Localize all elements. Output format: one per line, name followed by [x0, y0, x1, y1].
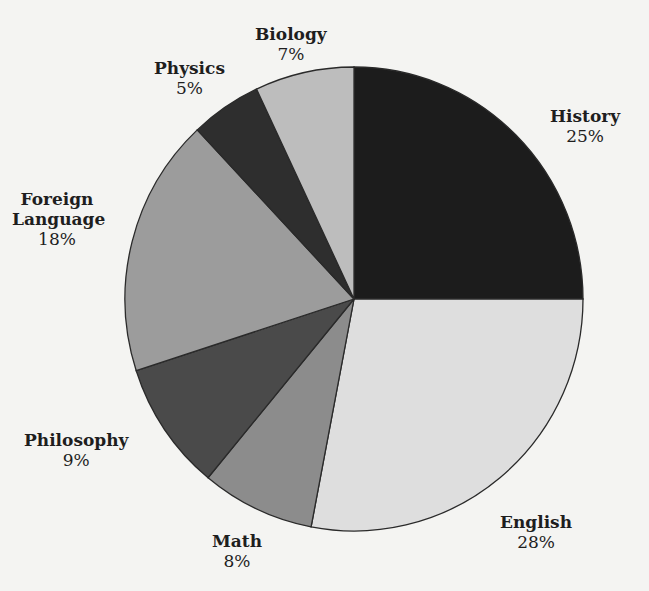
label-philosophy: Philosophy 9% [24, 430, 128, 470]
label-physics: Physics 5% [154, 58, 225, 98]
label-history: History 25% [550, 106, 620, 146]
pie-slice-english [311, 299, 583, 531]
label-biology: Biology 7% [255, 24, 327, 64]
pie-chart [0, 0, 649, 591]
label-foreign-language: Foreign Language 18% [12, 189, 102, 249]
label-english: English 28% [500, 512, 572, 552]
label-math: Math 8% [212, 531, 262, 571]
pie-slice-history [354, 67, 583, 299]
